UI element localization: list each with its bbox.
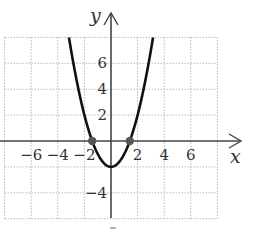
- axes: [0, 13, 241, 218]
- x-tick-label: −2: [73, 146, 95, 164]
- x-axis-label: x: [230, 145, 241, 167]
- x-tick-label: −4: [47, 146, 69, 164]
- y-tick-label: 4: [97, 80, 107, 98]
- x-tick-label: 6: [186, 146, 196, 164]
- x-tick-label: 4: [159, 146, 169, 164]
- intercept-point: [126, 137, 134, 145]
- y-tick-label: 6: [97, 54, 107, 72]
- tick-labels: −6−4−2246642−4: [20, 54, 195, 202]
- intercept-point: [88, 137, 96, 145]
- y-axis-label: y: [89, 4, 101, 26]
- x-tick-label: 2: [133, 146, 143, 164]
- y-tick-label: 2: [97, 106, 107, 124]
- x-tick-label: −6: [20, 146, 42, 164]
- y-tick-label: −4: [85, 184, 107, 202]
- graph: −6−4−2246642−4 x y: [0, 0, 254, 230]
